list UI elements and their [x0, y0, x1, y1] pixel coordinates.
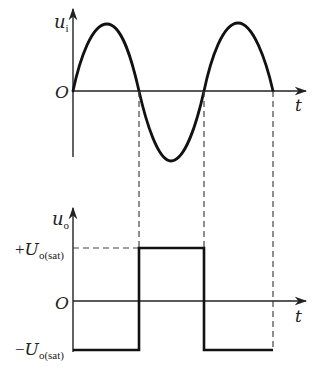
output-t-label: t [295, 306, 302, 326]
output-square-wave [73, 248, 273, 350]
input-origin-label: O [55, 82, 69, 102]
output-y-label: uo [52, 208, 70, 231]
comparator-waveform-diagram: ui O t uo O t +Uo(sat) −Uo(sat) [0, 0, 320, 373]
output-origin-label: O [55, 293, 69, 313]
input-plot: ui O t [54, 9, 306, 161]
reference-lines [73, 91, 273, 350]
input-sine-wave [73, 23, 273, 161]
input-t-label: t [295, 95, 302, 115]
input-y-label: ui [54, 11, 69, 34]
neg-sat-label: −Uo(sat) [15, 339, 64, 362]
pos-sat-label: +Uo(sat) [15, 239, 64, 262]
output-plot: uo O t +Uo(sat) −Uo(sat) [15, 208, 306, 362]
